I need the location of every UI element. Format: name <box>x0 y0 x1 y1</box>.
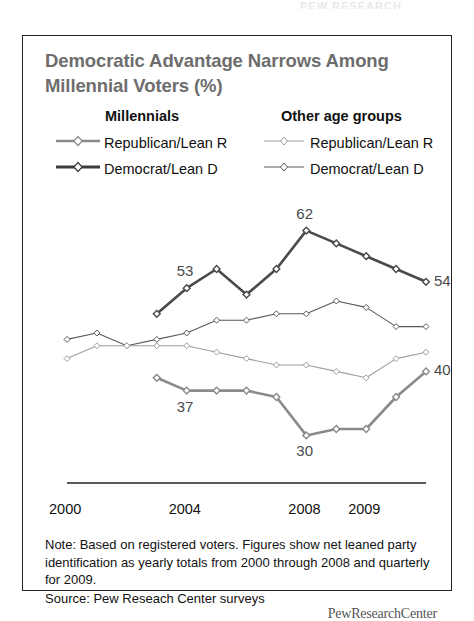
data-point-marker <box>124 343 130 349</box>
data-point-marker <box>273 311 279 317</box>
legend-line-marker-icon <box>261 134 307 152</box>
data-point-marker <box>244 356 250 362</box>
data-point-marker <box>64 336 70 342</box>
chart-series <box>153 368 429 439</box>
x-axis-tick-2009: 2009 <box>348 501 380 517</box>
legend-line-marker-icon <box>261 160 307 178</box>
figure-footer: Note: Based on registered voters. Figure… <box>45 536 437 607</box>
data-point-marker <box>303 311 309 317</box>
data-point-marker <box>333 368 339 374</box>
data-value-label: 40 <box>434 361 451 378</box>
data-point-marker <box>214 349 220 355</box>
data-value-label: 54 <box>434 272 451 289</box>
legend-item-label: Democrat/Lean D <box>310 161 424 177</box>
legend-item-other-republican[interactable]: Republican/Lean R <box>261 134 433 152</box>
legend-item-label: Republican/Lean R <box>310 135 433 151</box>
legend-item-other-democrat[interactable]: Democrat/Lean D <box>261 160 424 178</box>
data-point-marker <box>273 362 279 368</box>
chart-series <box>153 227 429 317</box>
data-point-marker <box>184 330 190 336</box>
data-value-label: 53 <box>177 262 194 279</box>
legend-group-millennials-header: Millennials <box>105 108 179 124</box>
data-point-marker <box>423 324 429 330</box>
x-axis-tick-2004: 2004 <box>169 501 201 517</box>
data-point-marker <box>333 298 339 304</box>
legend-item-label: Republican/Lean R <box>104 135 227 151</box>
data-point-marker <box>154 343 160 349</box>
series-layer <box>64 227 429 439</box>
legend-line-marker-icon <box>55 160 101 178</box>
data-point-marker <box>213 387 220 394</box>
legend-item-millennials-democrat[interactable]: Democrat/Lean D <box>55 160 218 178</box>
series-line <box>157 371 426 435</box>
data-point-marker <box>244 317 250 323</box>
data-point-marker <box>64 356 70 362</box>
chart-series <box>64 298 429 349</box>
data-point-marker <box>154 336 160 342</box>
legend-item-millennials-republican[interactable]: Republican/Lean R <box>55 134 227 152</box>
pew-research-center-logo: PewResearchCenter <box>328 606 437 621</box>
x-axis-tick-2008: 2008 <box>288 501 320 517</box>
data-value-label: 30 <box>296 442 313 459</box>
legend-item-label: Democrat/Lean D <box>104 161 218 177</box>
x-axis-tick-labels: 2000200420082009 <box>23 501 453 525</box>
chart-plot-area: 536254373040 <box>23 191 453 491</box>
figure-card: Democratic Advantage Narrows Among Mille… <box>22 35 452 591</box>
data-point-marker <box>214 317 220 323</box>
note-text: Note: Based on registered voters. Figure… <box>45 536 437 589</box>
data-point-marker <box>184 343 190 349</box>
data-point-marker <box>94 343 100 349</box>
data-point-marker <box>333 426 340 433</box>
cut-off-header-remnant: PEW RESEARCH <box>300 0 430 9</box>
data-point-marker <box>363 304 369 310</box>
x-axis-tick-2000: 2000 <box>49 501 81 517</box>
legend-group-other-header: Other age groups <box>281 108 402 124</box>
data-point-marker <box>393 356 399 362</box>
page-title: Democratic Advantage Narrows Among Mille… <box>45 48 437 98</box>
chart-series <box>64 343 429 381</box>
chart-legend: Millennials Other age groups Republican/… <box>23 108 453 186</box>
data-point-marker <box>393 324 399 330</box>
data-point-marker <box>94 330 100 336</box>
data-point-marker <box>303 362 309 368</box>
data-point-marker <box>243 387 250 394</box>
data-value-label: 37 <box>177 398 194 415</box>
line-chart-svg <box>23 191 453 491</box>
series-line <box>157 231 426 314</box>
data-point-marker <box>423 349 429 355</box>
data-point-marker <box>363 375 369 381</box>
legend-line-marker-icon <box>55 134 101 152</box>
source-text: Source: Pew Reseach Center surveys <box>45 590 437 608</box>
data-value-label: 62 <box>296 205 313 222</box>
